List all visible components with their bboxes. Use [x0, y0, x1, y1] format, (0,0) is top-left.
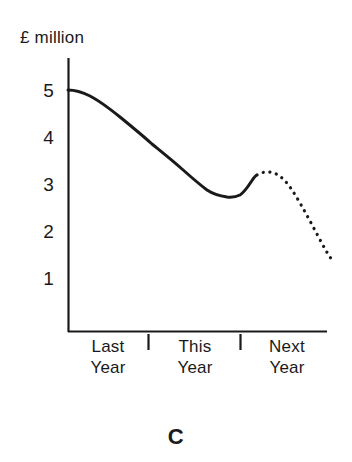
x-axis-category-label-this-year-line2: Year: [153, 357, 237, 378]
x-axis-category-label-this-year: This Year: [153, 336, 237, 378]
x-axis-category-label-last-year: Last Year: [66, 336, 150, 378]
x-axis-category-label-last-year-line2: Year: [66, 357, 150, 378]
series-line-forecast: [257, 172, 335, 262]
chart-plot-area: [0, 0, 352, 462]
x-axis-category-label-next-year: Next Year: [245, 336, 329, 378]
x-axis-category-label-next-year-line1: Next: [245, 336, 329, 357]
series-line-actual: [68, 90, 256, 197]
x-axis-category-label-next-year-line2: Year: [245, 357, 329, 378]
x-axis-category-label-last-year-line1: Last: [66, 336, 150, 357]
chart-figure: £ million 5 4 3 2 1 Last Year This Year …: [0, 0, 352, 462]
x-axis-category-label-this-year-line1: This: [153, 336, 237, 357]
panel-letter-caption: C: [0, 424, 352, 450]
